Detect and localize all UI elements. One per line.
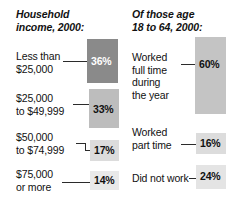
bar-value-worked-part-time: 16% bbox=[200, 138, 220, 149]
leader-line-worked-full-time bbox=[181, 64, 195, 65]
bar-value-did-not-work: 24% bbox=[200, 171, 220, 182]
left-panel-heading: Household income, 2000: bbox=[16, 8, 84, 34]
leader-line-worked-part-time bbox=[181, 144, 197, 145]
bar-worked-full-time bbox=[195, 37, 226, 114]
leader-line-25000-49999 bbox=[73, 104, 90, 105]
row-label-25000-49999: $25,000 to $49,999 bbox=[16, 92, 64, 117]
leader-line-75000-or-more bbox=[62, 182, 91, 183]
infographic-chart: Household income, 2000: Less than $25,00… bbox=[0, 0, 246, 203]
row-label-worked-part-time: Worked part time bbox=[132, 126, 172, 151]
household-income-panel: Household income, 2000: Less than $25,00… bbox=[0, 0, 123, 203]
row-label-50000-74999: $50,000 to $74,999 bbox=[16, 131, 64, 156]
row-label-worked-full-time: Worked full time during the year bbox=[132, 51, 169, 101]
bar-value-50000-74999: 17% bbox=[94, 145, 114, 156]
row-label-less-than-25000: Less than $25,000 bbox=[16, 50, 60, 75]
leader-line-less-than-25000 bbox=[63, 61, 88, 62]
row-label-did-not-work: Did not work bbox=[132, 172, 189, 185]
bar-value-75000-or-more: 14% bbox=[94, 175, 114, 186]
row-label-75000-or-more: $75,000 or more bbox=[16, 168, 53, 193]
bar-value-less-than-25000: 36% bbox=[91, 56, 111, 67]
employment-status-panel: Of those age 18 to 64, 2000: Worked full… bbox=[123, 0, 246, 203]
bar-value-25000-49999: 33% bbox=[93, 104, 113, 115]
right-panel-heading: Of those age 18 to 64, 2000: bbox=[132, 8, 202, 34]
bar-value-worked-full-time: 60% bbox=[199, 59, 219, 70]
